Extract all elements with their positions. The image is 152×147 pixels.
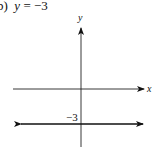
graph: y x −3: [0, 0, 152, 147]
y-axis: y: [77, 12, 83, 147]
intercept-label: −3: [66, 111, 78, 123]
x-axis-label: x: [146, 83, 152, 94]
y-axis-label: y: [77, 12, 83, 23]
x-axis: x: [13, 83, 152, 94]
horizontal-line-y-neg3: −3: [21, 111, 143, 124]
